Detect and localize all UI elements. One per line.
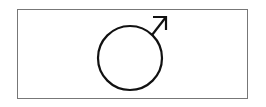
male-symbol-icon bbox=[0, 0, 266, 107]
